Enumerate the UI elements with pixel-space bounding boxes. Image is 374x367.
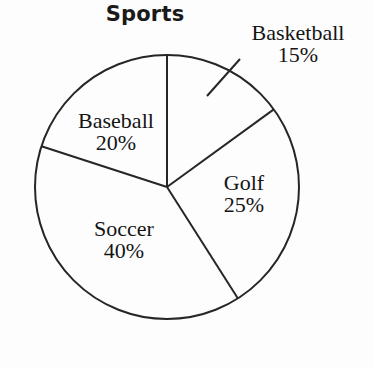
pie-slice-name-baseball: Baseball [52, 110, 180, 132]
pie-slice-label-baseball: Baseball 20% [52, 110, 180, 155]
pie-slice-label-golf: Golf 25% [196, 172, 292, 217]
pie-slice-value-soccer: 40% [66, 240, 182, 262]
pie-slice-value-baseball: 20% [52, 132, 180, 154]
pie-slice-value-golf: 25% [196, 194, 292, 216]
pie-slice-value-basketball: 15% [222, 44, 374, 66]
pie-slice-label-basketball: Basketball 15% [222, 22, 374, 67]
pie-slice-name-basketball: Basketball [222, 22, 374, 44]
pie-slice-name-soccer: Soccer [66, 218, 182, 240]
pie-chart-figure: Sports Basketball 15% Golf 25% Soccer 40… [0, 0, 374, 367]
pie-slice-name-golf: Golf [196, 172, 292, 194]
pie-slice-label-soccer: Soccer 40% [66, 218, 182, 263]
